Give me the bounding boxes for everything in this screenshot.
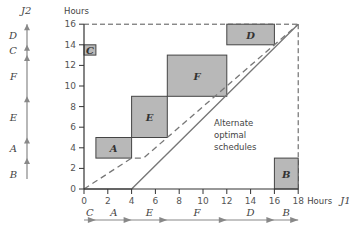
- x-tick-label: 4: [129, 196, 135, 206]
- region-label-e: E: [145, 112, 154, 123]
- y-tick-label: 0: [70, 184, 76, 194]
- j2-job-b: B: [9, 169, 17, 180]
- x-axis-title: Hours: [307, 196, 332, 206]
- x-tick-label: 18: [292, 196, 304, 206]
- j1-job-a: A: [109, 207, 117, 218]
- j1-job-c: C: [86, 207, 94, 218]
- annotation-text: optimal: [214, 130, 246, 140]
- region-label-d: D: [245, 30, 255, 41]
- j2-job-d: D: [8, 30, 17, 41]
- y-tick-label: 16: [65, 19, 77, 29]
- j1-job-f: F: [193, 207, 202, 218]
- j1-arrow-icon: [124, 217, 132, 223]
- y-tick-label: 12: [65, 60, 76, 70]
- j1-arrow-icon: [219, 217, 227, 223]
- j2-job-c: C: [9, 45, 17, 56]
- x-tick-label: 6: [153, 196, 159, 206]
- y-axis-title: Hours: [64, 6, 89, 16]
- y-tick-label: 8: [70, 102, 76, 112]
- j1-label: J1: [338, 195, 350, 206]
- j1-job-d: D: [246, 207, 255, 218]
- schedule-solid: [84, 24, 298, 189]
- j2-label: J2: [19, 5, 31, 16]
- y-tick-label: 6: [70, 122, 76, 132]
- j1-arrow-icon: [290, 217, 298, 223]
- j2-arrow-icon: [24, 55, 30, 61]
- x-tick-label: 10: [197, 196, 209, 206]
- j1-job-e: E: [145, 207, 154, 218]
- j2-arrow-icon: [24, 158, 30, 164]
- x-tick-label: 16: [269, 196, 281, 206]
- annotation-text: schedules: [214, 142, 257, 152]
- region-label-b: B: [281, 169, 290, 180]
- j1-arrow-icon: [159, 217, 167, 223]
- j2-job-a: A: [9, 143, 17, 154]
- y-tick-label: 4: [70, 143, 76, 153]
- y-tick-label: 14: [65, 40, 77, 50]
- schedule-diagram: CAEFDB0246810121416180246810121416HoursH…: [0, 0, 360, 238]
- schedule-dashed: [84, 24, 298, 189]
- y-tick-label: 2: [70, 163, 76, 173]
- region-label-c: C: [86, 45, 94, 56]
- region-label-f: F: [192, 71, 201, 82]
- annotation-text: Alternate: [214, 118, 253, 128]
- x-tick-label: 8: [176, 196, 182, 206]
- x-tick-label: 12: [221, 196, 232, 206]
- x-tick-label: 2: [105, 196, 111, 206]
- y-tick-label: 10: [65, 81, 77, 91]
- j2-job-f: F: [9, 71, 18, 82]
- region-label-a: A: [109, 143, 118, 154]
- x-tick-label: 0: [81, 196, 87, 206]
- j1-arrow-icon: [266, 217, 274, 223]
- j2-arrow-icon: [24, 96, 30, 102]
- j1-job-b: B: [282, 207, 290, 218]
- j2-job-e: E: [9, 112, 18, 123]
- j2-arrow-icon: [24, 24, 30, 30]
- j2-arrow-icon: [24, 138, 30, 144]
- j2-arrow-icon: [24, 45, 30, 51]
- x-tick-label: 14: [245, 196, 257, 206]
